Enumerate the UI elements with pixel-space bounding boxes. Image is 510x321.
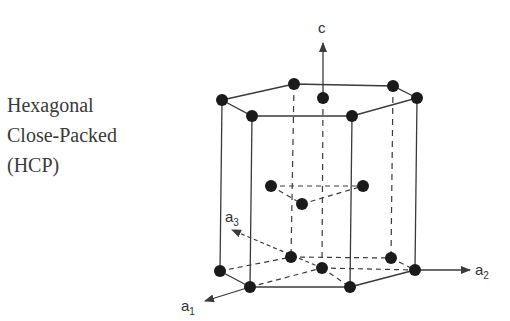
atom-bottom-1 (214, 265, 226, 277)
a1-axis: a1 (181, 287, 250, 317)
a3-axis-label: a3 (225, 208, 239, 228)
c-axis-label: c (318, 19, 326, 36)
hcp-unit-cell-diagram: c a3 (0, 0, 510, 321)
atom-top-center (317, 92, 329, 104)
c-axis: c (318, 19, 326, 98)
a1-axis-label: a1 (181, 297, 195, 317)
atom-middle-1 (265, 180, 277, 192)
atom-top-5 (346, 110, 358, 122)
middle-layer-triangle (271, 186, 363, 204)
atom-top-1 (216, 94, 228, 106)
atom-bottom-center (316, 262, 328, 274)
atom-bottom-4 (409, 264, 421, 276)
atom-middle-2 (357, 180, 369, 192)
atom-bottom-5 (344, 281, 356, 293)
atom-top-2 (288, 78, 300, 90)
atom-top-6 (246, 110, 258, 122)
a2-axis-label: a2 (475, 261, 489, 281)
a3-axis: a3 (225, 208, 322, 268)
a2-axis: a2 (415, 261, 489, 281)
atom-bottom-3 (385, 252, 397, 264)
atom-bottom-6 (244, 281, 256, 293)
atom-top-3 (387, 80, 399, 92)
vertical-dashed-edges (291, 84, 393, 268)
atom-bottom-2 (285, 251, 297, 263)
atom-middle-3 (296, 198, 308, 210)
atom-top-4 (411, 92, 423, 104)
